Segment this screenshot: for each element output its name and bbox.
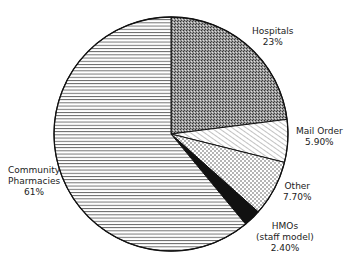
label-hospitals-name: Hospitals	[252, 26, 293, 37]
label-mail-order-name: Mail Order	[296, 126, 343, 137]
label-hmos: HMOs (staff model) 2.40%	[256, 221, 314, 254]
label-other-value: 7.70%	[283, 192, 312, 203]
label-other: Other 7.70%	[283, 181, 312, 203]
label-community-name2: Pharmacies	[8, 176, 60, 187]
label-hmos-name: HMOs	[256, 221, 314, 232]
label-hospitals: Hospitals 23%	[252, 26, 293, 48]
label-hmos-value: 2.40%	[256, 243, 314, 254]
label-community-name: Community	[8, 165, 60, 176]
label-other-name: Other	[283, 181, 312, 192]
label-mail-order: Mail Order 5.90%	[296, 126, 343, 148]
label-hospitals-value: 23%	[252, 37, 293, 48]
label-community-value: 61%	[8, 187, 60, 198]
label-hmos-name2: (staff model)	[256, 232, 314, 243]
label-community: Community Pharmacies 61%	[8, 165, 60, 198]
pie-slices	[54, 17, 288, 251]
label-mail-order-value: 5.90%	[296, 137, 343, 148]
